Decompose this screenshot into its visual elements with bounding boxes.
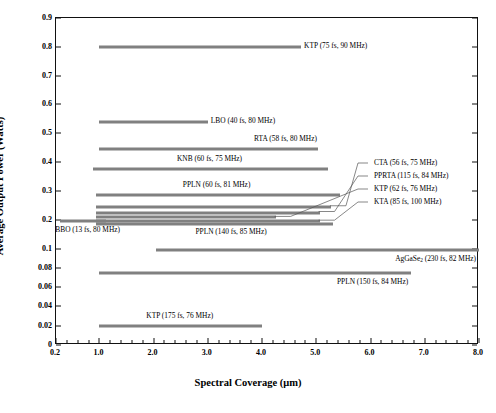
x-tick-mark-minor: [88, 340, 89, 343]
y-tick-mark-right: [472, 46, 477, 47]
y-tick-label: 0.02: [18, 322, 56, 330]
y-tick-label: 0.04: [18, 302, 56, 310]
x-tick-mark-minor: [218, 340, 219, 343]
data-bar: [99, 45, 301, 48]
y-tick-mark: [56, 46, 61, 47]
x-tick-label: 3.0: [202, 348, 212, 357]
x-tick-mark-minor: [186, 340, 187, 343]
y-tick-mark: [56, 190, 61, 191]
y-tick-mark-right: [472, 345, 477, 346]
y-tick-mark-right: [472, 267, 477, 268]
y-tick-mark-right: [472, 325, 477, 326]
x-tick-mark-major: [207, 338, 208, 343]
data-bar-label: KTP (75 fs, 90 MHz): [304, 42, 367, 49]
data-bar-label: KTA (85 fs, 100 MHz): [374, 198, 441, 205]
x-tick-mark-minor: [435, 340, 436, 343]
x-tick-mark-major: [99, 338, 100, 343]
data-bar: [96, 223, 333, 226]
plot-area: 00.020.040.060.080.10.20.30.40.50.60.70.…: [55, 17, 478, 344]
x-tick-mark-minor: [131, 340, 132, 343]
data-bar: [99, 271, 411, 274]
x-tick-mark-minor: [359, 340, 360, 343]
x-tick-mark-minor: [413, 340, 414, 343]
data-bar: [99, 148, 318, 151]
x-tick-label: 4.0: [256, 348, 266, 357]
chart-root: Average Output Power (Watts) Spectral Co…: [0, 0, 496, 413]
data-bar: [96, 205, 331, 208]
data-bar: [99, 120, 207, 123]
data-bar-label: BBO (13 fs, 80 MHz): [55, 226, 120, 233]
data-bar-label: LBO (40 fs, 80 MHz): [211, 117, 275, 124]
y-tick-mark-right: [472, 162, 477, 163]
y-tick-mark-right: [472, 133, 477, 134]
x-tick-label: 1.0: [93, 348, 103, 357]
x-tick-mark-minor: [468, 340, 469, 343]
x-tick-mark-minor: [142, 340, 143, 343]
x-tick-mark-minor: [294, 340, 295, 343]
data-bar: [60, 220, 106, 223]
y-tick-label: 0.2: [18, 216, 56, 224]
data-bar-label: PPLN (150 fs, 84 MHz): [337, 278, 408, 285]
x-tick-mark-minor: [197, 340, 198, 343]
data-bar: [96, 194, 340, 197]
data-bar-label: KTP (175 fs, 76 MHz): [146, 312, 213, 319]
x-tick-mark-minor: [327, 340, 328, 343]
y-tick-mark-right: [472, 219, 477, 220]
x-tick-mark-minor: [272, 340, 273, 343]
y-tick-mark-right: [472, 75, 477, 76]
data-bar-label: PPLN (140 fs, 85 MHz): [195, 228, 266, 235]
data-bar-label: PPLN (60 fs, 81 MHz): [183, 182, 251, 189]
x-tick-mark-major: [479, 338, 480, 343]
y-tick-mark: [56, 325, 61, 326]
x-tick-mark-minor: [392, 340, 393, 343]
y-tick-label: 0.4: [18, 158, 56, 166]
x-tick-label: 6.0: [365, 348, 375, 357]
y-tick-mark: [56, 306, 61, 307]
y-tick-label: 0.08: [18, 264, 56, 272]
x-tick-mark-minor: [381, 340, 382, 343]
data-bar: [96, 211, 320, 214]
x-tick-mark-minor: [338, 340, 339, 343]
x-tick-mark-minor: [77, 340, 78, 343]
x-tick-mark-minor: [66, 340, 67, 343]
x-tick-mark-major: [153, 338, 154, 343]
x-tick-mark-minor: [283, 340, 284, 343]
y-tick-mark: [56, 133, 61, 134]
x-tick-mark-minor: [251, 340, 252, 343]
x-tick-mark-minor: [229, 340, 230, 343]
y-tick-mark: [56, 287, 61, 288]
y-tick-mark: [56, 267, 61, 268]
x-axis-title: Spectral Coverage (μm): [0, 377, 496, 388]
y-tick-mark-right: [472, 18, 477, 19]
x-tick-mark-major: [424, 338, 425, 343]
x-tick-label: 5.0: [310, 348, 320, 357]
y-tick-label: 0.5: [18, 129, 56, 137]
y-tick-label: 0.6: [18, 100, 56, 108]
x-tick-label: 7.0: [419, 348, 429, 357]
data-bar-label: PPRTA (115 fs, 84 MHz): [374, 172, 448, 179]
data-bar-label: AgGaSe2 (230 fs, 82 MHz): [395, 255, 476, 264]
y-tick-mark-right: [472, 306, 477, 307]
x-tick-mark-major: [262, 338, 263, 343]
data-bar-label: CTA (56 fs, 75 MHz): [374, 159, 437, 166]
x-tick-mark-major: [56, 338, 57, 343]
y-tick-mark-right: [472, 104, 477, 105]
x-tick-mark-minor: [164, 340, 165, 343]
x-tick-mark-minor: [110, 340, 111, 343]
data-bar: [93, 168, 328, 171]
x-tick-mark-minor: [305, 340, 306, 343]
x-tick-mark-minor: [348, 340, 349, 343]
y-tick-label: 0.9: [18, 14, 56, 22]
y-tick-mark-right: [472, 190, 477, 191]
y-tick-label: 0.1: [18, 245, 56, 253]
y-tick-mark: [56, 345, 61, 346]
data-bar: [156, 249, 479, 252]
y-tick-label: 0.8: [18, 43, 56, 51]
x-tick-label: 2.0: [148, 348, 158, 357]
y-axis-title: Average Output Power (Watts): [0, 117, 5, 256]
data-bar: [99, 324, 262, 327]
y-tick-label: 0.3: [18, 187, 56, 195]
y-tick-mark: [56, 75, 61, 76]
x-tick-mark-minor: [403, 340, 404, 343]
y-tick-mark: [56, 18, 61, 19]
